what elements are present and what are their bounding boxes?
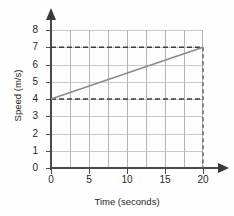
y-tick-label: 0	[24, 163, 38, 173]
plot-area	[51, 30, 203, 168]
x-tick-label: 0	[41, 175, 61, 185]
speed-time-graph: 0 1 2 3 4 5 6 7 8 0 5 10 15 20 Speed (m/…	[0, 0, 234, 216]
y-axis-line	[50, 18, 52, 170]
y-tick-mark	[46, 116, 51, 117]
y-tick-label: 6	[24, 60, 38, 70]
x-axis-arrow-icon	[218, 163, 229, 173]
y-tick-label: 3	[24, 111, 38, 121]
x-tick-label: 10	[117, 175, 137, 185]
gridline-vertical	[70, 30, 71, 168]
gridline-vertical	[89, 30, 90, 168]
y-tick-mark	[46, 99, 51, 100]
x-tick-label: 20	[193, 175, 213, 185]
y-tick-mark	[46, 47, 51, 48]
y-axis-title: Speed (m/s)	[12, 56, 23, 136]
gridline-vertical	[127, 30, 128, 168]
y-tick-label: 1	[24, 146, 38, 156]
x-tick-label: 15	[155, 175, 175, 185]
y-tick-mark	[46, 30, 51, 31]
x-tick-label: 5	[79, 175, 99, 185]
gridline-vertical	[184, 30, 185, 168]
y-tick-label: 7	[24, 42, 38, 52]
x-axis-line	[51, 167, 219, 169]
y-tick-mark	[46, 65, 51, 66]
y-tick-mark	[46, 82, 51, 83]
gridline-vertical	[146, 30, 147, 168]
y-tick-mark	[46, 134, 51, 135]
y-tick-label: 4	[24, 94, 38, 104]
gridline-vertical	[202, 30, 203, 168]
y-tick-label: 2	[24, 129, 38, 139]
y-tick-label: 8	[24, 25, 38, 35]
y-tick-label: 5	[24, 77, 38, 87]
x-axis-title: Time (seconds)	[51, 196, 203, 207]
gridline-vertical	[108, 30, 109, 168]
gridline-vertical	[165, 30, 166, 168]
y-axis-arrow-icon	[46, 8, 56, 20]
y-tick-mark	[46, 151, 51, 152]
